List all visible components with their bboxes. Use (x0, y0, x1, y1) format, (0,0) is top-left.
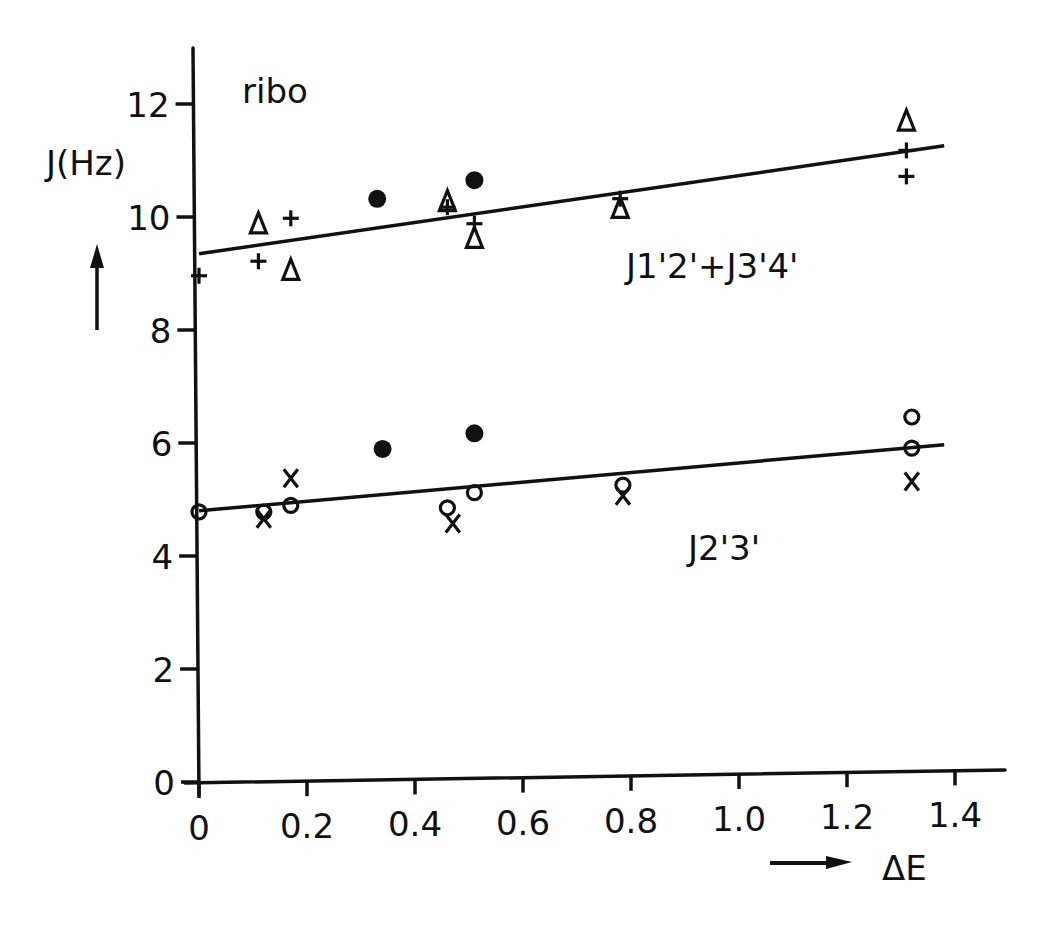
x-axis-label: ΔE (882, 848, 927, 888)
marker-triangle (250, 213, 266, 233)
regression-line (199, 445, 944, 511)
marker-open-circle (284, 498, 298, 512)
marker-triangle (283, 259, 299, 279)
marker-plus (898, 142, 914, 158)
y-tick-label: 2 (152, 650, 174, 690)
x-tick-label: 0.6 (496, 803, 550, 843)
y-tick-label: 6 (151, 424, 173, 464)
y-tick-label: 0 (153, 763, 175, 803)
marker-filled-circle (368, 190, 386, 208)
marker-plus (283, 210, 299, 226)
data-points (191, 110, 919, 532)
x-tick-label: 1.2 (820, 797, 874, 837)
x-tick-label: 0.4 (388, 804, 442, 844)
marker-cross (616, 487, 630, 505)
marker-cross (905, 472, 919, 490)
marker-plus (250, 253, 266, 269)
series-label-j12-j34: J1'2'+J3'4' (624, 246, 798, 286)
y-axis (193, 48, 199, 795)
marker-plus (466, 216, 482, 232)
marker-filled-circle (465, 171, 483, 189)
x-axis-arrow-icon (770, 856, 852, 869)
marker-triangle (898, 110, 914, 130)
y-axis-label: J(Hz) (44, 143, 126, 183)
y-tick-label: 8 (150, 311, 172, 351)
y-axis-arrow-icon (90, 244, 104, 330)
series-label-j23: J2'3' (686, 528, 760, 568)
fit-lines (199, 146, 944, 511)
y-tick-label: 12 (126, 85, 169, 125)
x-tick-label: 0.8 (604, 801, 658, 841)
chart-title: ribo (242, 71, 308, 111)
y-tick-label: 10 (127, 198, 170, 238)
marker-cross (446, 515, 460, 533)
x-tick-label: 1.4 (928, 795, 982, 835)
x-tick-label: 0 (188, 808, 210, 848)
scatter-chart: 024681012 00.20.40.60.81.01.21.4 ribo J(… (0, 0, 1048, 929)
x-ticks: 00.20.40.60.81.01.21.4 (188, 769, 982, 848)
marker-cross (284, 469, 298, 487)
y-ticks: 024681012 (126, 85, 199, 803)
x-tick-label: 0.2 (280, 806, 334, 846)
axes (185, 48, 1005, 795)
marker-filled-circle (465, 424, 483, 442)
x-tick-label: 1.0 (712, 799, 766, 839)
marker-plus (898, 168, 914, 184)
marker-open-circle (905, 410, 919, 424)
marker-filled-circle (374, 440, 392, 458)
marker-open-circle (440, 501, 454, 515)
y-tick-label: 4 (152, 537, 174, 577)
regression-line (199, 146, 944, 254)
